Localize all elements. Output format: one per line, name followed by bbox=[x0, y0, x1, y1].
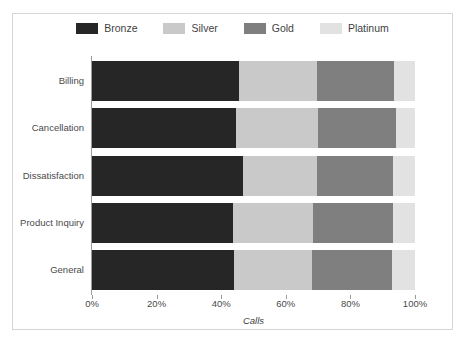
y-axis-tick-label: Cancellation bbox=[2, 123, 84, 133]
bar-segment[interactable] bbox=[236, 108, 318, 148]
x-axis-title: Calls bbox=[92, 316, 415, 326]
x-axis-tick-label: 0% bbox=[85, 299, 99, 309]
bar-segment[interactable] bbox=[393, 156, 415, 196]
bar-segment[interactable] bbox=[92, 203, 233, 243]
x-axis-tick-label: 60% bbox=[276, 299, 295, 309]
bar-segment[interactable] bbox=[92, 250, 234, 290]
y-axis-tick-label: Billing bbox=[2, 76, 84, 86]
bar-segment[interactable] bbox=[396, 108, 415, 148]
y-axis-tick-label: Product Inquiry bbox=[2, 218, 84, 228]
bar-segment[interactable] bbox=[394, 61, 415, 101]
bar-segment[interactable] bbox=[92, 156, 243, 196]
bar-segment[interactable] bbox=[239, 61, 317, 101]
bar-segment[interactable] bbox=[392, 250, 415, 290]
bar-row bbox=[92, 108, 415, 148]
bar-segment[interactable] bbox=[234, 250, 312, 290]
bar-segment[interactable] bbox=[317, 156, 393, 196]
bar-row bbox=[92, 250, 415, 290]
chart-container: BronzeSilverGoldPlatinum BillingCancella… bbox=[0, 0, 467, 347]
bar-segment[interactable] bbox=[317, 61, 394, 101]
bar-row bbox=[92, 156, 415, 196]
bar-track bbox=[92, 250, 415, 290]
bar-track bbox=[92, 108, 415, 148]
bar-segment[interactable] bbox=[313, 203, 393, 243]
x-axis-tick-label: 40% bbox=[212, 299, 231, 309]
bar-segment[interactable] bbox=[312, 250, 392, 290]
bar-segment[interactable] bbox=[92, 61, 239, 101]
bar-segment[interactable] bbox=[243, 156, 317, 196]
plot-wrap: BillingCancellationDissatisfactionProduc… bbox=[0, 0, 467, 347]
bar-segment[interactable] bbox=[393, 203, 415, 243]
bar-segment[interactable] bbox=[318, 108, 396, 148]
x-axis-tick-label: 80% bbox=[341, 299, 360, 309]
plot-area bbox=[92, 57, 415, 294]
x-axis-tick-label: 20% bbox=[147, 299, 166, 309]
bar-row bbox=[92, 61, 415, 101]
bar-row bbox=[92, 203, 415, 243]
bar-segment[interactable] bbox=[233, 203, 313, 243]
bar-segment[interactable] bbox=[92, 108, 236, 148]
y-axis-tick-label: Dissatisfaction bbox=[2, 171, 84, 181]
y-axis-tick-labels: BillingCancellationDissatisfactionProduc… bbox=[0, 57, 84, 294]
y-axis-tick-label: General bbox=[2, 265, 84, 275]
x-axis-tick-label: 100% bbox=[403, 299, 427, 309]
bar-track bbox=[92, 61, 415, 101]
bar-track bbox=[92, 203, 415, 243]
x-axis-tick-labels: 0%20%40%60%80%100% bbox=[92, 299, 415, 313]
bar-track bbox=[92, 156, 415, 196]
